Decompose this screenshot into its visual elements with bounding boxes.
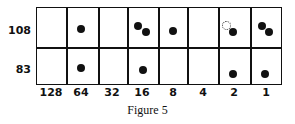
- counter-dot: [229, 28, 237, 36]
- row-label: 108: [8, 24, 31, 37]
- counter-dot: [77, 25, 85, 33]
- column-divider: [250, 8, 252, 84]
- counter-dot: [142, 28, 150, 36]
- counter-dot: [77, 64, 85, 72]
- column-label: 1: [251, 86, 281, 99]
- counter-dot: [265, 28, 273, 36]
- counter-dot: [169, 27, 177, 35]
- figure-caption: Figure 5: [0, 103, 295, 118]
- column-divider: [98, 8, 100, 84]
- column-label: 4: [188, 86, 218, 99]
- column-divider: [187, 8, 189, 84]
- column-label: 8: [158, 86, 188, 99]
- column-label: 32: [97, 86, 127, 99]
- counter-dot: [134, 22, 142, 30]
- column-divider: [218, 8, 220, 84]
- counter-dot: [229, 70, 237, 78]
- column-label: 64: [66, 86, 96, 99]
- column-label: 16: [127, 86, 157, 99]
- row-label: 83: [16, 63, 31, 76]
- column-label: 2: [219, 86, 249, 99]
- column-label: 128: [36, 86, 66, 99]
- counter-dot: [261, 70, 269, 78]
- column-divider: [127, 8, 129, 84]
- column-divider: [66, 8, 68, 84]
- abacus-grid: [36, 7, 282, 85]
- column-divider: [158, 8, 160, 84]
- row-divider: [37, 47, 281, 49]
- counter-dot: [139, 66, 147, 74]
